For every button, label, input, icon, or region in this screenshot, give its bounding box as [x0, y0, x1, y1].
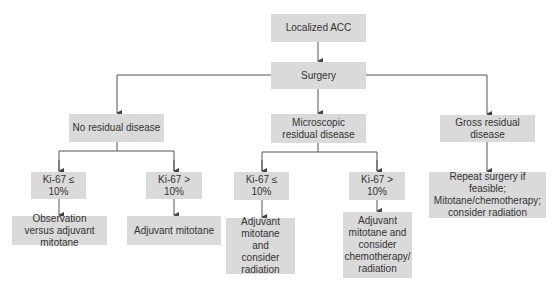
node-label: Adjuvant mitotane and consider radiation — [232, 216, 289, 276]
node-adjuvant-mitotane: Adjuvant mitotane — [127, 216, 221, 245]
node-microscopic-residual: Microscopic residual disease — [271, 114, 366, 143]
node-localized-acc: Localized ACC — [271, 14, 366, 42]
node-no-residual: No residual disease — [69, 114, 164, 142]
node-label: Ki-67 > 10% — [352, 174, 402, 198]
node-mitotane-chemo-radiation: Adjuvant mitotane and consider chemother… — [343, 212, 412, 278]
node-nr-ki67-low: Ki-67 ≤ 10% — [31, 172, 86, 199]
node-label: Adjuvant mitotane — [134, 225, 214, 237]
node-label: Ki-67 > 10% — [149, 174, 199, 198]
node-observation: Observation versus adjuvant mitotane — [12, 216, 107, 245]
node-label: Observation versus adjuvant mitotane — [20, 213, 99, 249]
node-surgery: Surgery — [271, 62, 366, 89]
node-mic-ki67-low: Ki-67 ≤ 10% — [234, 172, 289, 200]
node-label: Ki-67 ≤ 10% — [237, 174, 286, 198]
node-repeat-surgery: Repeat surgery if feasible; Mitotane/che… — [429, 172, 546, 218]
node-label: Surgery — [301, 70, 336, 82]
node-label: Gross residual disease — [454, 117, 521, 141]
node-mic-ki67-high: Ki-67 > 10% — [349, 172, 405, 200]
node-label: Ki-67 ≤ 10% — [34, 174, 83, 198]
node-label: Localized ACC — [286, 22, 352, 34]
node-label: Adjuvant mitotane and consider chemother… — [344, 215, 410, 275]
node-nr-ki67-high: Ki-67 > 10% — [146, 172, 202, 199]
node-label: No residual disease — [73, 122, 161, 134]
node-gross-residual: Gross residual disease — [440, 115, 535, 142]
node-mitotane-radiation: Adjuvant mitotane and consider radiation — [226, 218, 295, 274]
node-label: Repeat surgery if feasible; Mitotane/che… — [434, 171, 541, 219]
node-label: Microscopic residual disease — [274, 117, 363, 141]
